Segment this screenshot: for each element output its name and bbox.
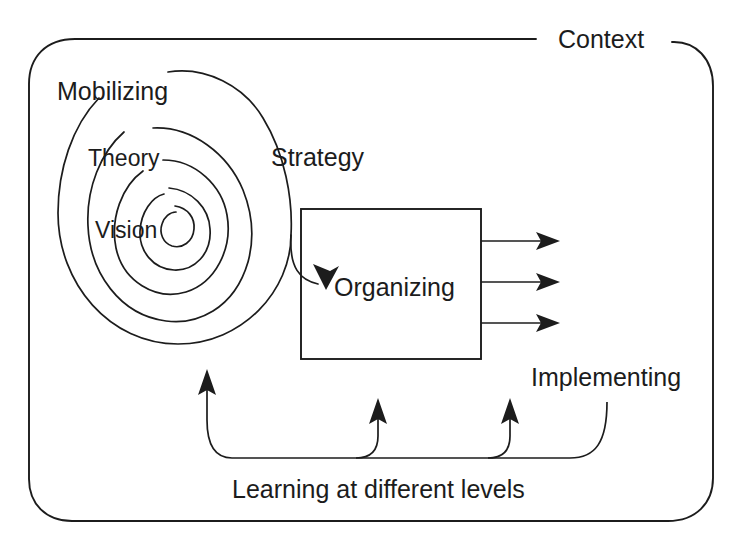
feedback-spine <box>207 402 607 458</box>
spiral-arm-1 <box>58 98 291 344</box>
label-learning: Learning at different levels <box>232 475 525 503</box>
spiral-arm-outer-strategy <box>168 71 318 284</box>
output-arrows-group <box>481 232 560 332</box>
label-mobilizing: Mobilizing <box>57 77 168 105</box>
spiral-arm-core <box>161 206 194 247</box>
label-strategy: Strategy <box>271 143 365 171</box>
label-context: Context <box>558 25 644 53</box>
label-organizing: Organizing <box>334 273 455 301</box>
label-vision: Vision <box>95 217 157 243</box>
label-implementing: Implementing <box>531 363 681 391</box>
label-theory: Theory <box>88 145 160 171</box>
diagram-canvas: Context Mobilizing Theory Vision Strateg… <box>0 0 739 547</box>
context-diagram: Context Mobilizing Theory Vision Strateg… <box>0 0 739 547</box>
